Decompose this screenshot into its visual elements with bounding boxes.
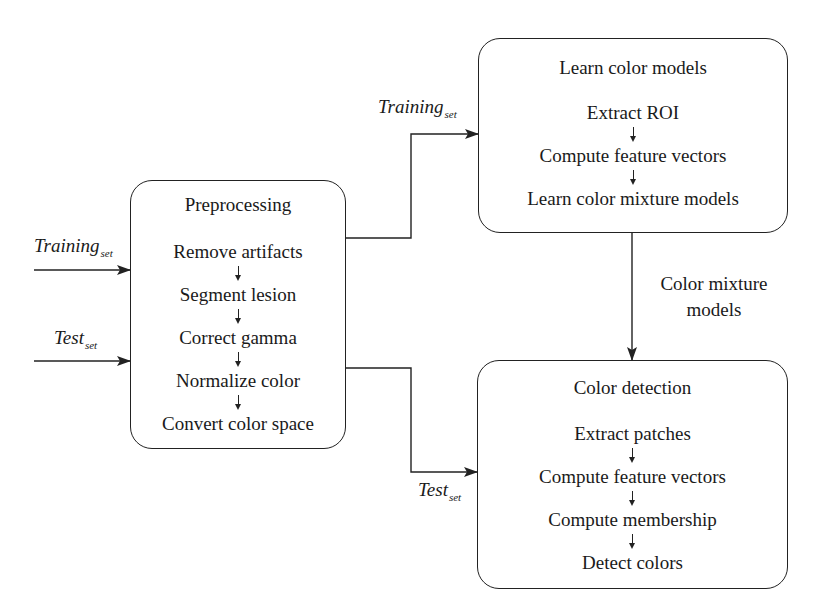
- down-arrow-icon: [233, 349, 243, 370]
- detection-steps: Extract patches Compute feature vectors …: [478, 423, 787, 574]
- step-extract-roi: Extract ROI: [587, 102, 679, 124]
- detection-title: Color detection: [478, 377, 787, 399]
- training-input-label: Trainingset: [34, 235, 113, 259]
- test-edge-label: Testset: [418, 479, 461, 503]
- learn-color-models-box: Learn color models Extract ROI Compute f…: [478, 38, 788, 233]
- step-extract-patches: Extract patches: [574, 423, 691, 445]
- down-arrow-icon: [628, 124, 638, 145]
- step-compute-feature-vectors: Compute feature vectors: [540, 145, 727, 167]
- models-edge-label: Color mixture models: [644, 271, 784, 323]
- learn-title: Learn color models: [479, 57, 787, 79]
- down-arrow-icon: [233, 392, 243, 413]
- preprocessing-steps: Remove artifacts Segment lesion Correct …: [131, 241, 345, 435]
- color-detection-box: Color detection Extract patches Compute …: [477, 360, 788, 589]
- down-arrow-icon: [628, 488, 638, 509]
- down-arrow-icon: [233, 306, 243, 327]
- learn-steps: Extract ROI Compute feature vectors Lear…: [479, 102, 787, 210]
- test-to-detection-arrow: [345, 368, 477, 472]
- step-compute-feature-vectors: Compute feature vectors: [539, 466, 726, 488]
- down-arrow-icon: [628, 445, 638, 466]
- step-remove-artifacts: Remove artifacts: [173, 241, 302, 263]
- training-to-learn-arrow: [345, 134, 478, 238]
- step-normalize-color: Normalize color: [176, 370, 300, 392]
- preprocessing-box: Preprocessing Remove artifacts Segment l…: [130, 180, 346, 449]
- step-learn-mixture-models: Learn color mixture models: [527, 188, 739, 210]
- step-detect-colors: Detect colors: [582, 552, 683, 574]
- down-arrow-icon: [628, 531, 638, 552]
- training-edge-label: Trainingset: [378, 96, 457, 120]
- step-correct-gamma: Correct gamma: [179, 327, 297, 349]
- step-compute-membership: Compute membership: [548, 509, 716, 531]
- test-input-label: Testset: [54, 327, 97, 351]
- step-convert-color-space: Convert color space: [162, 413, 314, 435]
- down-arrow-icon: [628, 167, 638, 188]
- down-arrow-icon: [233, 263, 243, 284]
- step-segment-lesion: Segment lesion: [180, 284, 297, 306]
- preprocessing-title: Preprocessing: [131, 194, 345, 216]
